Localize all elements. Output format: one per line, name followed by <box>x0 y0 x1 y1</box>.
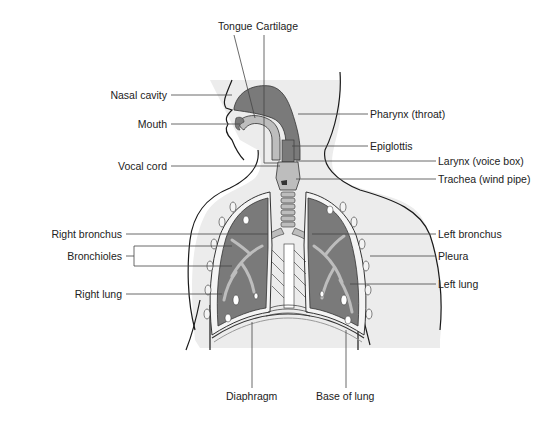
label-pleura: Pleura <box>438 250 468 262</box>
label-cartilage: Cartilage <box>256 20 298 32</box>
label-bronchioles: Bronchioles <box>67 250 122 262</box>
label-trachea: Trachea (wind pipe) <box>438 173 530 185</box>
label-pharynx: Pharynx (throat) <box>370 108 445 120</box>
label-nasal-cavity: Nasal cavity <box>110 89 167 101</box>
label-right-bronchus: Right bronchus <box>51 228 122 240</box>
label-base-of-lung: Base of lung <box>316 390 374 402</box>
label-left-lung: Left lung <box>438 278 478 290</box>
respiratory-system-diagram: Tongue Cartilage Nasal cavity Mouth Voca… <box>0 0 549 421</box>
label-diaphragm: Diaphragm <box>226 390 277 402</box>
label-left-bronchus: Left bronchus <box>438 228 502 240</box>
label-epiglottis: Epiglottis <box>370 140 413 152</box>
label-larynx: Larynx (voice box) <box>438 155 524 167</box>
label-mouth: Mouth <box>138 118 167 130</box>
label-right-lung: Right lung <box>75 288 122 300</box>
label-tongue: Tongue <box>218 20 252 32</box>
anatomy-illustration <box>0 0 549 421</box>
label-vocal-cord: Vocal cord <box>118 160 167 172</box>
